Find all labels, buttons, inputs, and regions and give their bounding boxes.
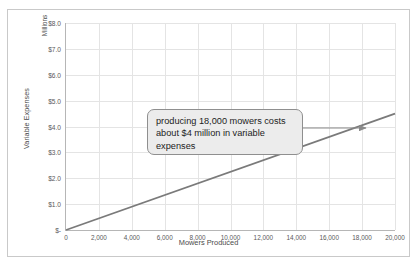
x-axis-tick-label: 18,000 [352,234,372,241]
annotation-callout: producing 18,000 mowers costs about $4 m… [147,109,303,155]
x-axis-tick-label: 12,000 [254,234,274,241]
y-axis-tick-label: $5.0 [48,97,61,104]
y-axis-tick-label: $- [55,227,61,234]
x-axis-tick-label: 6,000 [157,234,173,241]
x-axis-tick-label: 20,000 [385,234,405,241]
y-axis-tick-label: $2.0 [48,175,61,182]
y-axis-tick-label: $4.0 [48,123,61,130]
y-axis-tick-label: $8.0 [48,20,61,27]
x-axis-tick-label: 4,000 [124,234,140,241]
x-axis-tick-label: 14,000 [287,234,307,241]
x-axis-tick-label: 16,000 [319,234,339,241]
annotation-text: producing 18,000 mowers costs about $4 m… [156,116,286,151]
y-axis-tick-label: $3.0 [48,149,61,156]
chart-container: Millions Variable Expenses Mowers Produc… [7,9,410,257]
y-axis-title: Variable Expenses [22,64,31,174]
y-axis-unit-label: Millions [41,4,48,48]
y-axis-tick-label: $1.0 [48,201,61,208]
gridline-vertical [395,23,396,230]
x-axis-tick-label: 8,000 [190,234,206,241]
x-axis-tick-label: 0 [64,234,68,241]
x-axis-tick-label: 10,000 [221,234,241,241]
y-axis-tick-label: $7.0 [48,45,61,52]
y-axis-tick-label: $6.0 [48,71,61,78]
annotation-arrow-icon [302,116,378,140]
x-axis-tick-label: 2,000 [91,234,107,241]
